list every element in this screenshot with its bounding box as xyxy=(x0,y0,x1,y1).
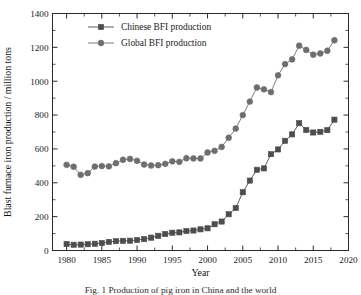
data-point-square xyxy=(134,237,139,242)
data-point-square xyxy=(120,238,125,243)
data-point-circle xyxy=(155,162,161,168)
data-point-square xyxy=(254,167,259,172)
data-point-square xyxy=(142,237,147,242)
data-point-circle xyxy=(212,148,218,154)
data-point-circle xyxy=(92,164,98,170)
data-point-square xyxy=(149,235,154,240)
data-point-square xyxy=(297,121,302,126)
data-point-circle xyxy=(113,160,119,166)
data-point-square xyxy=(304,127,309,132)
legend-label-0: Chinese BFI production xyxy=(121,22,211,32)
data-point-circle xyxy=(71,164,77,170)
data-point-square xyxy=(85,242,90,247)
data-point-square xyxy=(318,129,323,134)
data-point-square xyxy=(212,222,217,227)
data-point-circle xyxy=(148,163,154,169)
y-tick-label: 1000 xyxy=(30,77,49,87)
legend-label-1: Global BFI production xyxy=(121,38,207,48)
data-point-circle xyxy=(162,161,168,167)
data-point-circle xyxy=(226,135,232,141)
data-point-circle xyxy=(134,158,140,164)
data-point-circle xyxy=(275,72,281,78)
data-point-circle xyxy=(64,162,70,168)
data-point-circle xyxy=(332,37,338,43)
y-tick-label: 200 xyxy=(35,212,49,222)
x-tick-label: 2015 xyxy=(304,255,323,265)
data-point-square xyxy=(219,219,224,224)
data-point-square xyxy=(240,190,245,195)
y-axis-title: Blast furnace iron production / million … xyxy=(2,47,13,217)
data-point-circle xyxy=(268,89,274,95)
x-tick-label: 2000 xyxy=(198,255,217,265)
data-point-circle xyxy=(247,99,253,105)
data-point-circle xyxy=(127,156,133,162)
y-tick-label: 1200 xyxy=(30,43,49,53)
data-point-square xyxy=(198,227,203,232)
data-point-square xyxy=(311,130,316,135)
data-point-circle xyxy=(176,159,182,165)
x-tick-label: 1995 xyxy=(163,255,182,265)
data-point-circle xyxy=(261,86,267,92)
data-point-square xyxy=(191,228,196,233)
y-tick-label: 800 xyxy=(35,110,49,120)
data-point-square xyxy=(247,178,252,183)
data-point-circle xyxy=(106,163,112,169)
y-tick-label: 1400 xyxy=(30,9,49,19)
data-point-circle xyxy=(282,61,288,67)
x-tick-label: 1985 xyxy=(93,255,112,265)
data-point-square xyxy=(92,241,97,246)
y-tick-label: 400 xyxy=(35,178,49,188)
data-point-circle xyxy=(99,163,105,169)
data-point-square xyxy=(226,212,231,217)
data-point-square xyxy=(261,166,266,171)
data-point-circle xyxy=(184,155,190,161)
data-point-circle xyxy=(240,112,246,118)
x-tick-label: 1990 xyxy=(128,255,147,265)
data-point-circle xyxy=(169,158,175,164)
data-point-circle xyxy=(198,156,204,162)
chart-canvas: 0200400600800100012001400198019851990199… xyxy=(0,0,361,295)
data-point-square xyxy=(106,239,111,244)
data-point-square xyxy=(275,147,280,152)
x-tick-label: 1980 xyxy=(57,255,76,265)
data-point-square xyxy=(99,240,104,245)
data-point-square xyxy=(268,152,273,157)
data-point-circle xyxy=(310,52,316,58)
figure-caption: Fig. 1 Production of pig iron in China a… xyxy=(0,285,361,295)
data-point-circle xyxy=(78,172,84,178)
data-point-square xyxy=(282,138,287,143)
data-point-circle xyxy=(303,47,309,53)
data-point-square xyxy=(332,117,337,122)
legend-marker-square xyxy=(98,24,103,29)
x-tick-label: 2010 xyxy=(269,255,288,265)
legend-marker-circle xyxy=(98,40,104,46)
data-point-square xyxy=(177,230,182,235)
y-tick-label: 0 xyxy=(44,246,49,256)
data-point-circle xyxy=(219,144,225,150)
data-point-circle xyxy=(289,56,295,62)
data-point-circle xyxy=(141,162,147,168)
data-point-circle xyxy=(85,170,91,176)
figure-container: 0200400600800100012001400198019851990199… xyxy=(0,0,361,295)
data-point-circle xyxy=(191,156,197,162)
data-point-circle xyxy=(254,85,260,91)
x-tick-label: 2005 xyxy=(234,255,253,265)
x-axis-title: Year xyxy=(191,267,210,278)
x-tick-label: 2020 xyxy=(339,255,358,265)
data-point-square xyxy=(127,238,132,243)
data-point-square xyxy=(233,205,238,210)
data-point-circle xyxy=(120,157,126,163)
data-point-square xyxy=(170,230,175,235)
y-tick-label: 600 xyxy=(35,144,49,154)
data-point-square xyxy=(184,228,189,233)
data-point-circle xyxy=(205,150,211,156)
data-point-square xyxy=(156,233,161,238)
data-point-circle xyxy=(233,126,239,132)
data-point-square xyxy=(205,226,210,231)
data-point-square xyxy=(290,132,295,137)
data-point-square xyxy=(78,242,83,247)
data-point-square xyxy=(163,231,168,236)
data-point-circle xyxy=(324,48,330,54)
data-point-square xyxy=(64,241,69,246)
series-line-0 xyxy=(67,120,335,245)
